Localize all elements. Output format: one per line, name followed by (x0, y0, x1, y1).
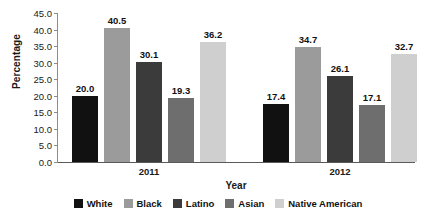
legend-swatch-icon (74, 199, 83, 208)
y-axis-tick-label: 25.0 (34, 74, 53, 85)
legend-swatch-icon (124, 199, 133, 208)
bar-value-label: 17.4 (267, 91, 286, 102)
legend-label: Black (137, 198, 162, 209)
bar: 17.4 (263, 104, 289, 162)
legend-item[interactable]: Black (124, 198, 162, 209)
x-axis-category-label: 2011 (139, 166, 160, 177)
y-axis-tick-label: 15.0 (34, 107, 53, 118)
y-axis-tick (54, 112, 58, 113)
y-axis-tick (54, 63, 58, 64)
legend-label: White (87, 198, 113, 209)
bar: 20.0 (72, 96, 98, 162)
bar-value-label: 32.7 (395, 41, 414, 52)
legend-swatch-icon (275, 199, 284, 208)
y-axis-tick (54, 46, 58, 47)
bar: 26.1 (327, 76, 353, 162)
y-axis-tick (54, 129, 58, 130)
bar: 36.2 (200, 42, 226, 162)
y-axis-tick-label: 35.0 (34, 41, 53, 52)
bar-group: 17.434.726.117.132.7 (263, 13, 417, 162)
legend-item[interactable]: White (74, 198, 113, 209)
y-axis-tick-label: 45.0 (34, 8, 53, 19)
plot-area: 45.040.035.030.025.020.015.010.05.00.0 2… (57, 13, 415, 163)
bar-value-label: 30.1 (140, 49, 159, 60)
y-axis-tick-label: 0.0 (39, 157, 52, 168)
bar-group: 20.040.530.119.336.2 (72, 13, 226, 162)
bar-value-label: 40.5 (108, 15, 127, 26)
legend-label: Latino (186, 198, 215, 209)
y-axis-tick (54, 30, 58, 31)
legend-item[interactable]: Native American (275, 198, 362, 209)
y-axis-tick (54, 79, 58, 80)
bar-value-label: 36.2 (204, 29, 223, 40)
y-axis-tick-label: 40.0 (34, 24, 53, 35)
legend-item[interactable]: Asian (225, 198, 264, 209)
bar-value-label: 20.0 (76, 83, 95, 94)
legend-swatch-icon (173, 199, 182, 208)
bar: 32.7 (391, 54, 417, 162)
legend-label: Native American (288, 198, 362, 209)
bar-value-label: 19.3 (172, 85, 191, 96)
y-axis-tick-label: 20.0 (34, 90, 53, 101)
bar: 40.5 (104, 28, 130, 162)
legend-swatch-icon (225, 199, 234, 208)
y-axis-title: Percentage (11, 14, 22, 110)
x-axis-title: Year (57, 180, 415, 191)
bar-value-label: 26.1 (331, 63, 350, 74)
chart-legend: WhiteBlackLatinoAsianNative American (0, 198, 436, 209)
bar-value-label: 17.1 (363, 92, 382, 103)
bar: 30.1 (136, 62, 162, 162)
y-axis-tick-label: 5.0 (39, 140, 52, 151)
y-axis-tick (54, 96, 58, 97)
legend-label: Asian (238, 198, 264, 209)
y-axis-tick (54, 145, 58, 146)
y-axis-tick (54, 162, 58, 163)
bar: 34.7 (295, 47, 321, 162)
y-axis-tick-label: 10.0 (34, 123, 53, 134)
bar-chart: Percentage 45.040.035.030.025.020.015.01… (0, 0, 436, 221)
bar-value-label: 34.7 (299, 34, 318, 45)
legend-item[interactable]: Latino (173, 198, 215, 209)
x-axis-category-label: 2012 (329, 166, 350, 177)
y-axis-tick-label: 30.0 (34, 57, 53, 68)
bar: 17.1 (359, 105, 385, 162)
y-axis-tick (54, 13, 58, 14)
bar: 19.3 (168, 98, 194, 162)
